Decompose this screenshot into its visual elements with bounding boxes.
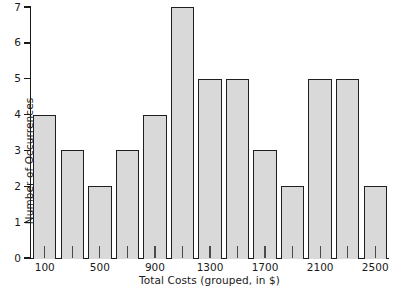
y-tick-mark [24, 257, 31, 258]
x-tick-mark [320, 246, 321, 258]
y-tick-label: 2 [0, 181, 21, 192]
x-tick-label: 900 [130, 262, 180, 273]
x-tick-mark [209, 246, 210, 258]
x-tick-mark [347, 246, 348, 258]
x-tick-mark [154, 246, 155, 258]
y-tick-label: 1 [0, 217, 21, 228]
x-tick-mark [182, 246, 183, 258]
x-tick-mark [264, 246, 265, 258]
x-tick-label: 500 [75, 262, 125, 273]
y-tick-mark [24, 6, 31, 7]
x-tick-mark [292, 246, 293, 258]
y-tick-label: 6 [0, 37, 21, 48]
y-tick-mark [24, 78, 31, 79]
histogram-bar [171, 7, 194, 259]
x-tick-mark [72, 246, 73, 258]
plot-area [31, 7, 389, 258]
histogram-bar [33, 115, 56, 259]
x-tick-label: 1700 [240, 262, 290, 273]
y-tick-label: 0 [0, 253, 21, 264]
x-tick-mark [375, 246, 376, 258]
y-tick-mark [24, 186, 31, 187]
y-tick-label: 7 [0, 2, 21, 13]
histogram-bar [116, 150, 139, 259]
histogram-bar [143, 115, 166, 259]
y-tick-mark [24, 42, 31, 43]
x-tick-mark [44, 246, 45, 258]
histogram-bar [226, 79, 249, 259]
x-tick-mark [99, 246, 100, 258]
histogram-bar [198, 79, 221, 259]
histogram-bar [61, 150, 84, 259]
y-tick-label: 4 [0, 109, 21, 120]
x-axis-title: Total Costs (grouped, in $) [31, 274, 388, 286]
x-tick-mark [127, 246, 128, 258]
x-tick-label: 1300 [185, 262, 235, 273]
x-tick-mark [237, 246, 238, 258]
y-tick-label: 3 [0, 145, 21, 156]
histogram-chart: Number of Occurrences 01234567 100500900… [0, 0, 396, 292]
y-tick-label: 5 [0, 73, 21, 84]
histogram-bar [308, 79, 331, 259]
x-tick-label: 100 [20, 262, 70, 273]
histogram-bar [336, 79, 359, 259]
x-tick-label: 2100 [295, 262, 345, 273]
histogram-bar [253, 150, 276, 259]
x-tick-label: 2500 [350, 262, 396, 273]
y-tick-mark [24, 150, 31, 151]
y-tick-mark [24, 114, 31, 115]
y-tick-mark [24, 222, 31, 223]
